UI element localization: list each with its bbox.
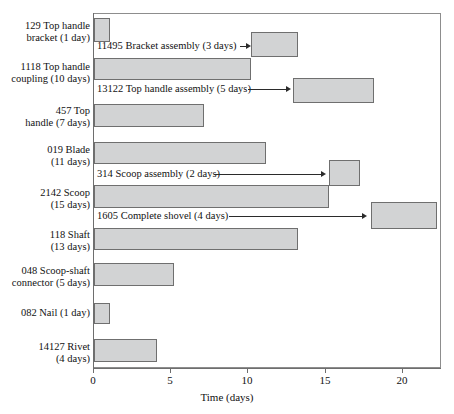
leader-line-314	[214, 174, 322, 175]
arrow-head-1605	[362, 213, 367, 219]
task-label-line2: connector (5 days)	[0, 277, 90, 289]
task-bar-048[interactable]	[94, 263, 174, 286]
task-label-line1: 019 Blade	[0, 144, 90, 156]
task-bar-314[interactable]	[329, 160, 360, 186]
task-row-048[interactable]: 048 Scoop-shaft connector (5 days)	[0, 263, 454, 291]
task-label-118: 118 Shaft (13 days)	[0, 229, 90, 252]
task-bar-118[interactable]	[94, 228, 298, 250]
leader-line-1605	[229, 216, 363, 217]
task-label-14127: 14127 Rivet (4 days)	[0, 341, 90, 364]
x-tick-label-5: 5	[155, 374, 185, 386]
leader-line-13122	[248, 89, 287, 90]
x-tick-10	[247, 368, 248, 373]
x-tick-label-15: 15	[310, 374, 340, 386]
task-label-line1: 1118 Top handle	[0, 61, 90, 73]
x-tick-label-0: 0	[78, 374, 108, 386]
task-label-line1: 129 Top handle	[0, 20, 90, 32]
task-label-line2: (4 days)	[0, 353, 90, 365]
task-label-line1: 14127 Rivet	[0, 341, 90, 353]
task-bar-11495[interactable]	[251, 32, 298, 57]
task-bar-082[interactable]	[94, 303, 110, 324]
task-label-line1: 082 Nail (1 day)	[0, 307, 90, 319]
task-label-11495: 11495 Bracket assembly (3 days)	[97, 40, 237, 52]
x-tick-0	[93, 368, 94, 373]
task-label-048: 048 Scoop-shaft connector (5 days)	[0, 265, 90, 288]
arrow-head-13122	[286, 86, 291, 92]
task-label-1605: 1605 Complete shovel (4 days)	[97, 210, 228, 222]
task-bar-1118[interactable]	[94, 58, 251, 80]
task-label-line1: 048 Scoop-shaft	[0, 265, 90, 277]
task-label-314: 314 Scoop assembly (2 days)	[97, 168, 220, 180]
task-row-457[interactable]: 457 Top handle (7 days)	[0, 104, 454, 132]
task-label-13122: 13122 Top handle assembly (5 days)	[97, 83, 251, 95]
task-bar-019[interactable]	[94, 142, 266, 164]
task-label-line1: 457 Top	[0, 105, 90, 117]
x-tick-20	[402, 368, 403, 373]
x-axis-line	[93, 368, 441, 369]
task-row-082[interactable]: 082 Nail (1 day)	[0, 303, 454, 329]
task-label-line1: 2142 Scoop	[0, 187, 90, 199]
task-row-14127[interactable]: 14127 Rivet (4 days)	[0, 339, 454, 367]
x-tick-label-10: 10	[232, 374, 262, 386]
x-tick-label-20: 20	[387, 374, 417, 386]
task-label-082: 082 Nail (1 day)	[0, 307, 90, 319]
x-axis-title: Time (days)	[0, 391, 454, 403]
task-row-13122[interactable]: 13122 Top handle assembly (5 days)	[0, 79, 454, 105]
task-label-line2: (13 days)	[0, 241, 90, 253]
arrow-head-314	[321, 171, 326, 177]
task-label-line2: handle (7 days)	[0, 117, 90, 129]
task-label-line1: 118 Shaft	[0, 229, 90, 241]
task-bar-14127[interactable]	[94, 339, 157, 362]
task-bar-13122[interactable]	[293, 78, 374, 103]
task-label-457: 457 Top handle (7 days)	[0, 105, 90, 128]
task-bar-457[interactable]	[94, 104, 204, 127]
x-tick-15	[325, 368, 326, 373]
gantt-chart: 129 Top handle bracket (1 day) 11495 Bra…	[0, 0, 454, 414]
task-bar-1605[interactable]	[371, 202, 437, 229]
task-row-118[interactable]: 118 Shaft (13 days)	[0, 228, 454, 256]
x-tick-5	[170, 368, 171, 373]
